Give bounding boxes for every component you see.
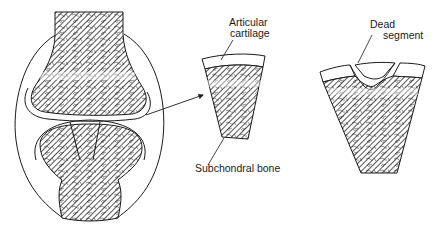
enlargement-arrow — [146, 95, 203, 115]
cartilage-right — [393, 63, 425, 78]
leader-subchondral-bone — [208, 138, 224, 165]
normal-segment — [202, 40, 265, 165]
label-articular-cartilage: Articular cartilage — [229, 17, 270, 39]
dead-segment-panel — [320, 35, 425, 173]
dead-cartilage-fragment — [355, 62, 395, 79]
upper-growth-plate — [40, 72, 135, 80]
label-dead-segment: Dead segment — [370, 19, 423, 41]
label-line: Subchondral bone — [195, 163, 280, 174]
label-line: cartilage — [230, 28, 270, 39]
label-line: segment — [383, 30, 423, 41]
upper-bone — [25, 12, 150, 121]
lower-bone — [35, 120, 145, 221]
label-subchondral-bone: Subchondral bone — [195, 163, 280, 174]
